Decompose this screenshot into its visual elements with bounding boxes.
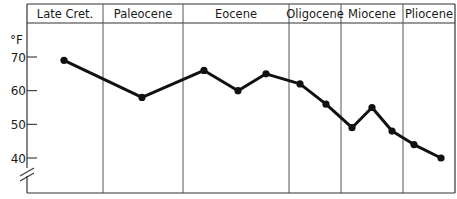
data-point-marker: [138, 94, 145, 101]
y-tick-label: 50: [11, 118, 26, 132]
data-point-marker: [60, 57, 67, 64]
chart-frame: [27, 4, 455, 193]
y-axis: °F40506070: [10, 23, 37, 193]
data-point-marker: [322, 101, 329, 108]
data-point-marker: [234, 87, 241, 94]
period-header-row: Late Cret.PaleoceneEoceneOligoceneMiocen…: [37, 7, 453, 21]
data-point-marker: [437, 154, 444, 161]
y-tick-label: 40: [11, 152, 26, 166]
period-label: Eocene: [215, 7, 257, 21]
y-axis-unit-label: °F: [10, 33, 23, 47]
period-label: Late Cret.: [37, 7, 93, 21]
y-tick-label: 60: [11, 84, 26, 98]
period-label: Miocene: [348, 7, 396, 21]
data-point-marker: [296, 80, 303, 87]
data-point-marker: [200, 67, 207, 74]
data-point-marker: [388, 127, 395, 134]
data-point-marker: [368, 104, 375, 111]
temperature-series: [60, 57, 444, 162]
y-tick-label: 70: [11, 51, 26, 65]
data-point-marker: [262, 70, 269, 77]
temperature-chart: Late Cret.PaleoceneEoceneOligoceneMiocen…: [0, 0, 457, 199]
period-label: Pliocene: [405, 7, 453, 21]
period-label: Paleocene: [114, 7, 173, 21]
data-point-marker: [348, 124, 355, 131]
temperature-line: [64, 60, 441, 158]
data-point-marker: [410, 141, 417, 148]
period-label: Oligocene: [286, 7, 344, 21]
